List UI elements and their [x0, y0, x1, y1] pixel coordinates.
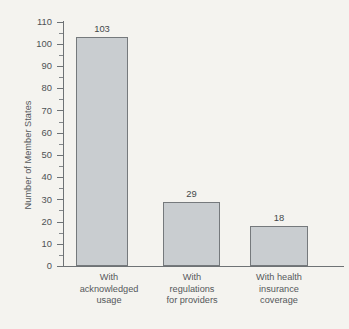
x-axis-category-label-line: With health: [225, 272, 333, 284]
y-tick-major: [57, 199, 63, 200]
y-tick-major: [57, 177, 63, 178]
y-tick-major: [57, 222, 63, 223]
y-tick-minor: [59, 122, 63, 123]
y-tick-minor: [59, 77, 63, 78]
y-tick-major: [57, 155, 63, 156]
x-axis-line: [63, 266, 344, 267]
y-tick-label: 20: [12, 217, 52, 226]
y-tick-label: 100: [12, 39, 52, 48]
y-tick-minor: [59, 210, 63, 211]
bar-chart: Number of Member States 0102030405060708…: [0, 0, 349, 329]
y-tick-minor: [59, 233, 63, 234]
y-tick-label: 50: [12, 150, 52, 159]
y-tick-major: [57, 22, 63, 23]
y-tick-major: [57, 88, 63, 89]
x-axis-category-label-line: coverage: [225, 295, 333, 307]
y-tick-label: 40: [12, 172, 52, 181]
bar: [250, 226, 308, 266]
y-tick-label: 60: [12, 128, 52, 137]
bar: [163, 202, 220, 266]
y-tick-major: [57, 44, 63, 45]
y-axis-line: [63, 21, 64, 267]
y-tick-label: 0: [12, 261, 52, 270]
y-tick-minor: [59, 144, 63, 145]
y-tick-label: 80: [12, 83, 52, 92]
y-tick-label: 30: [12, 195, 52, 204]
x-axis-category-label: With healthinsurancecoverage: [225, 272, 333, 307]
y-tick-major: [57, 266, 63, 267]
y-tick-minor: [59, 33, 63, 34]
x-axis-category-label-line: insurance: [225, 284, 333, 296]
y-tick-label: 90: [12, 61, 52, 70]
bar: [76, 37, 128, 266]
y-tick-major: [57, 133, 63, 134]
bar-value-label: 18: [249, 213, 309, 222]
y-tick-label: 70: [12, 106, 52, 115]
y-tick-major: [57, 244, 63, 245]
y-tick-minor: [59, 99, 63, 100]
bar-value-label: 29: [162, 189, 222, 198]
y-tick-major: [57, 66, 63, 67]
y-tick-label: 10: [12, 239, 52, 248]
y-tick-minor: [59, 188, 63, 189]
bar-value-label: 103: [72, 24, 132, 33]
y-tick-major: [57, 110, 63, 111]
y-tick-minor: [59, 166, 63, 167]
y-tick-label: 110: [12, 17, 52, 26]
y-tick-minor: [59, 255, 63, 256]
y-tick-minor: [59, 55, 63, 56]
